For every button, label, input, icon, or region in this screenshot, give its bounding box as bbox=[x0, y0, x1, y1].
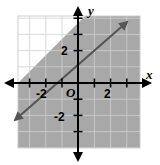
y-tick-label-positive-2: 2 bbox=[61, 45, 68, 57]
x-tick-label-negative-2: -2 bbox=[36, 88, 47, 100]
x-tick-label-positive-2: 2 bbox=[104, 88, 111, 100]
x-axis-label: x bbox=[146, 68, 153, 81]
y-tick-label-negative-2: -2 bbox=[54, 111, 65, 123]
coordinate-graph-figure: x y O -2 2 2 -2 bbox=[0, 0, 160, 165]
y-axis-label: y bbox=[88, 4, 94, 17]
graph-canvas bbox=[0, 0, 160, 165]
origin-label: O bbox=[66, 86, 75, 99]
